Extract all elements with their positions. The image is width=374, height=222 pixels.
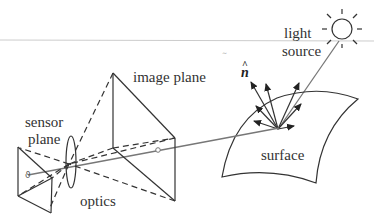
faint-mark: ~ xyxy=(222,49,227,56)
reflectance-arrows xyxy=(251,82,301,129)
sun-icon xyxy=(322,9,362,48)
horizontal-rule xyxy=(0,40,374,41)
normal-hat: ^ xyxy=(242,59,248,70)
sensor-plane-label: plane xyxy=(28,131,61,147)
sensor-pixel-mark: ϑ xyxy=(25,170,31,180)
image-plane-label: image plane xyxy=(133,69,206,85)
ray-point-marker xyxy=(156,148,161,153)
source-label: source xyxy=(282,43,321,59)
sensor-label: sensor xyxy=(25,114,63,130)
image-formation-diagram: light source ~ surface n ^ image plane xyxy=(0,0,374,222)
image-plane xyxy=(113,73,175,201)
surface-label: surface xyxy=(261,147,305,163)
optics-label: optics xyxy=(80,193,116,209)
surface-patch xyxy=(222,91,358,183)
light-label: light xyxy=(284,25,312,41)
